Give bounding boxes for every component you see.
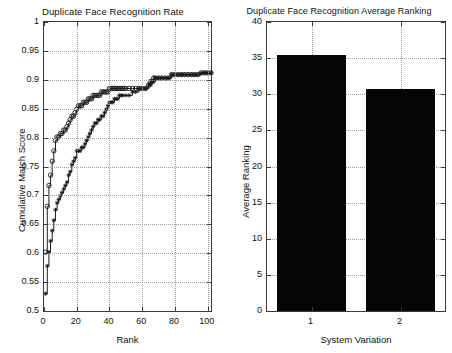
gridline-horizontal (44, 138, 211, 139)
axis-tick (207, 311, 211, 312)
axis-tick (44, 80, 48, 81)
gridline-horizontal (44, 51, 211, 52)
marker-star (44, 292, 48, 296)
axis-tick (175, 307, 176, 311)
gridline-horizontal (44, 224, 211, 225)
axis-tick (207, 195, 211, 196)
x-axis-label: Rank (43, 334, 212, 345)
marker-star (53, 208, 57, 212)
y-tick-label: 0.6 (1, 247, 39, 257)
y-tick-label: 0.55 (1, 276, 39, 286)
axis-tick (207, 22, 211, 23)
marker-star (45, 264, 49, 268)
x-tick-label: 1 (308, 316, 313, 326)
axis-tick (267, 94, 271, 95)
marker-star (143, 86, 147, 90)
x-axis-label-secondary: System Variation (266, 334, 446, 345)
y-tick-label: 15 (226, 197, 262, 207)
axis-tick (441, 275, 445, 276)
axis-tick (312, 307, 313, 311)
y-tick-label: 0.75 (1, 161, 39, 171)
series-markers-1 (43, 71, 213, 255)
marker-star (209, 71, 213, 75)
x-tick-label: 100 (199, 316, 214, 326)
y-tick-label: 10 (226, 233, 262, 243)
panel-average-ranking: Duplicate Face Recognition Average Ranki… (226, 0, 452, 353)
y-tick-label: 25 (226, 124, 262, 134)
y-tick-label: 35 (226, 52, 262, 62)
axis-tick (267, 130, 271, 131)
y-tick-label: 40 (226, 16, 262, 26)
marker-star (127, 93, 131, 97)
x-tick-label: 80 (169, 316, 179, 326)
axis-tick (207, 167, 211, 168)
plot-area-bars (266, 21, 446, 312)
gridline-horizontal (44, 167, 211, 168)
y-tick-label: 0.9 (1, 74, 39, 84)
y-tick-label: 20 (226, 161, 262, 171)
axis-tick (267, 311, 271, 312)
y-tick-label: 0.65 (1, 218, 39, 228)
y-tick-label: 5 (226, 269, 262, 279)
y-tick-label: 0.95 (1, 45, 39, 55)
axis-tick (267, 22, 271, 23)
axis-tick (44, 224, 48, 225)
axis-tick (267, 239, 271, 240)
axis-tick (267, 58, 271, 59)
axis-tick (207, 224, 211, 225)
panel-cumulative-match-characteristic: Duplicate Face Recognition Rate 166 dupl… (0, 0, 226, 353)
axis-tick (312, 22, 313, 26)
y-axis-label-secondary: Average Ranking (240, 145, 251, 218)
x-tick-label: 0 (40, 316, 45, 326)
marker-star (134, 90, 138, 94)
axis-tick (77, 22, 78, 26)
marker-star (52, 218, 56, 222)
axis-tick (142, 22, 143, 26)
x-tick-label: 60 (136, 316, 146, 326)
axis-tick (441, 239, 445, 240)
axis-tick (441, 94, 445, 95)
x-tick-label: 2 (397, 316, 402, 326)
series-line-2 (46, 73, 211, 294)
bar-1[interactable] (277, 55, 346, 311)
axis-tick (44, 138, 48, 139)
page-title-secondary: Duplicate Face Recognition Average Ranki… (226, 6, 452, 16)
axis-tick (44, 51, 48, 52)
x-tick-label: 40 (103, 316, 113, 326)
axis-tick (207, 253, 211, 254)
gridline-horizontal (44, 253, 211, 254)
axis-tick (441, 311, 445, 312)
axis-tick (207, 282, 211, 283)
axis-tick (44, 282, 48, 283)
figure-canvas: Duplicate Face Recognition Rate 166 dupl… (0, 0, 452, 353)
axis-tick (44, 253, 48, 254)
axis-tick (207, 109, 211, 110)
y-tick-label: 0.5 (1, 305, 39, 315)
bar-2[interactable] (366, 89, 435, 311)
gridline-horizontal (44, 109, 211, 110)
axis-tick (401, 307, 402, 311)
series-markers-2 (44, 71, 214, 296)
gridline-horizontal (44, 80, 211, 81)
axis-tick (207, 138, 211, 139)
axis-tick (109, 307, 110, 311)
axis-tick (441, 130, 445, 131)
axis-tick (267, 167, 271, 168)
axis-tick (44, 109, 48, 110)
x-tick-label: 20 (71, 316, 81, 326)
axis-tick (441, 58, 445, 59)
y-tick-label: 1 (1, 16, 39, 26)
y-tick-label: 30 (226, 88, 262, 98)
y-tick-label: 0.85 (1, 103, 39, 113)
axis-tick (401, 22, 402, 26)
marker-star (65, 180, 69, 184)
axis-tick (267, 203, 271, 204)
axis-tick (441, 167, 445, 168)
plot-area-cmc (43, 21, 212, 312)
axis-tick (142, 307, 143, 311)
axis-tick (44, 167, 48, 168)
gridline-horizontal (44, 195, 211, 196)
axis-tick (207, 51, 211, 52)
y-tick-label: 0.7 (1, 189, 39, 199)
gridline-horizontal (44, 282, 211, 283)
